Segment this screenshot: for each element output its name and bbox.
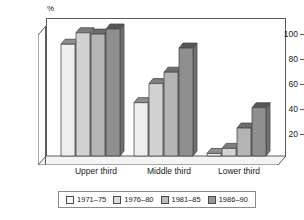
legend-item-1986-90[interactable]: 1986–90 [208, 195, 248, 204]
bar-chart: % 100 80 60 40 20 Upper third Middle thi… [0, 0, 304, 220]
legend-item-1976-80[interactable]: 1976–80 [113, 195, 153, 204]
legend-label: 1981–85 [172, 195, 201, 204]
legend-label: 1986–90 [219, 195, 248, 204]
y-tick-60: 60 [258, 79, 304, 89]
legend-item-1981-85[interactable]: 1981–85 [161, 195, 201, 204]
category-label-upper-third: Upper third [56, 166, 136, 176]
y-tick-mark [300, 134, 304, 135]
y-tick-mark [300, 84, 304, 85]
y-tick-40: 40 [258, 104, 304, 114]
y-tick-label: 60 [289, 79, 300, 89]
category-label-lower-third: Lower third [199, 166, 279, 176]
y-tick-20: 20 [258, 129, 304, 139]
y-tick-label: 80 [289, 54, 300, 64]
y-tick-mark [300, 109, 304, 110]
y-tick-mark [300, 59, 304, 60]
legend-swatch-icon [208, 196, 216, 204]
y-tick-label: 40 [289, 104, 300, 114]
plot-area [46, 18, 286, 157]
y-tick-80: 80 [258, 54, 304, 64]
y-tick-100: 100 [258, 29, 304, 39]
category-label-middle-third: Middle third [129, 166, 209, 176]
legend: 1971–75 1976–80 1981–85 1986–90 [58, 191, 256, 208]
legend-swatch-icon [161, 196, 169, 204]
legend-label: 1976–80 [124, 195, 153, 204]
y-axis-line [45, 26, 46, 165]
chart-floor [38, 149, 286, 165]
y-tick-label: 100 [284, 29, 300, 39]
y-axis-unit-label: % [47, 4, 54, 13]
legend-label: 1971–75 [77, 195, 106, 204]
y-tick-label: 20 [289, 129, 300, 139]
legend-swatch-icon [66, 196, 74, 204]
y-tick-mark [300, 34, 304, 35]
legend-swatch-icon [113, 196, 121, 204]
legend-item-1971-75[interactable]: 1971–75 [66, 195, 106, 204]
